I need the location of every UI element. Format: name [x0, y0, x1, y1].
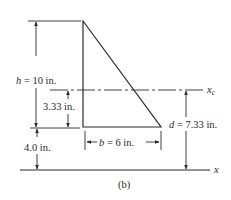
centroidal-axis-label: xc: [206, 84, 216, 97]
base-label: b = 6 in.: [99, 137, 134, 148]
triangle-centroid-diagram: h = 10 in. xc 3.33 in. 4.0 in. b = 6 in.…: [0, 0, 231, 200]
figure-caption: (b): [118, 179, 131, 191]
base-dimension: b = 6 in.: [85, 131, 161, 150]
base-to-axis-dimension: 4.0 in.: [24, 129, 51, 169]
triangle-shape: [83, 21, 161, 127]
centroid-offset-dimension: 3.33 in.: [43, 91, 75, 127]
reference-axis-label: x: [213, 164, 219, 175]
base-to-axis-label: 4.0 in.: [24, 142, 51, 153]
d-label: d = 7.33 in.: [169, 119, 217, 130]
centroid-offset-label: 3.33 in.: [43, 101, 75, 112]
height-label: h = 10 in.: [16, 75, 56, 86]
d-dimension: d = 7.33 in.: [168, 91, 230, 169]
